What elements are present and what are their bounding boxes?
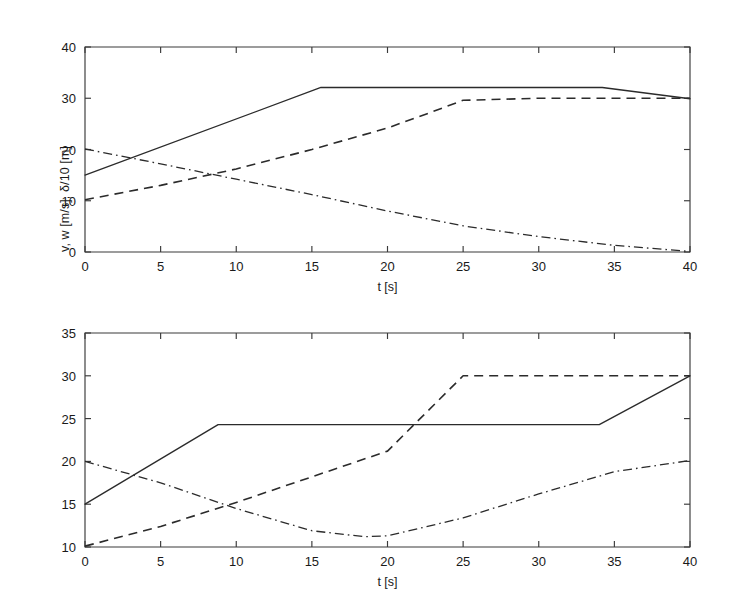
y-tick-label: 15 bbox=[62, 497, 76, 512]
x-tick-label: 20 bbox=[380, 259, 394, 274]
data-series-solid bbox=[85, 87, 690, 175]
data-series-solid bbox=[85, 376, 690, 504]
chart-panel-bottom: v, w [m/s], δ/10 [m] 0510152025303540101… bbox=[0, 300, 733, 604]
x-tick-label: 15 bbox=[305, 259, 319, 274]
x-tick-label: 30 bbox=[532, 259, 546, 274]
axis-frame bbox=[85, 333, 690, 547]
chart-panel-top: v, w [m/s], δ/10 [m] 0510152025303540010… bbox=[0, 0, 733, 304]
x-axis-label: t [s] bbox=[377, 575, 397, 589]
x-tick-label: 10 bbox=[229, 259, 243, 274]
x-tick-label: 35 bbox=[607, 259, 621, 274]
y-axis-label-top: v, w [m/s], δ/10 [m] bbox=[58, 146, 72, 252]
x-tick-label: 25 bbox=[456, 259, 470, 274]
plot-area-bottom: 0510152025303540101520253035t [s] bbox=[0, 300, 733, 604]
x-tick-label: 40 bbox=[683, 554, 697, 569]
y-tick-label: 40 bbox=[62, 40, 76, 55]
data-series-dashdot bbox=[85, 149, 690, 252]
x-axis-label: t [s] bbox=[377, 280, 397, 294]
x-tick-label: 30 bbox=[532, 554, 546, 569]
x-tick-label: 25 bbox=[456, 554, 470, 569]
axis-frame bbox=[85, 47, 690, 252]
y-tick-label: 10 bbox=[62, 540, 76, 555]
y-tick-label: 35 bbox=[62, 326, 76, 341]
plot-area-top: 0510152025303540010203040t [s] bbox=[0, 0, 733, 304]
x-tick-label: 15 bbox=[305, 554, 319, 569]
figure-container: v, w [m/s], δ/10 [m] 0510152025303540010… bbox=[0, 0, 733, 604]
x-tick-label: 5 bbox=[157, 259, 164, 274]
y-tick-label: 30 bbox=[62, 369, 76, 384]
x-tick-label: 0 bbox=[81, 259, 88, 274]
x-tick-label: 5 bbox=[157, 554, 164, 569]
x-tick-label: 0 bbox=[81, 554, 88, 569]
y-tick-label: 20 bbox=[62, 454, 76, 469]
x-tick-label: 20 bbox=[380, 554, 394, 569]
data-series-dashdot bbox=[85, 461, 690, 537]
x-tick-label: 40 bbox=[683, 259, 697, 274]
data-series-dashed bbox=[85, 98, 690, 199]
x-tick-label: 35 bbox=[607, 554, 621, 569]
data-series-dashed bbox=[85, 376, 690, 546]
y-tick-label: 30 bbox=[62, 91, 76, 106]
x-tick-label: 10 bbox=[229, 554, 243, 569]
y-tick-label: 25 bbox=[62, 412, 76, 427]
